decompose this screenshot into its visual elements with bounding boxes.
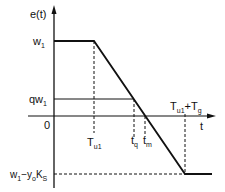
error-signal-diagram: e(t) w1 qw1 0 w1−yoKS Tu1 tq tm Tu1+Tg t <box>0 0 225 192</box>
tick-zero: 0 <box>44 119 50 131</box>
tick-Tu1-plus-Tg: Tu1+Tg <box>170 100 202 115</box>
y-axis-arrow-icon <box>52 5 57 14</box>
y-axis <box>52 5 57 188</box>
dashed-guides <box>54 41 185 174</box>
tick-tm: tm <box>143 134 152 148</box>
tick-Tu1: Tu1 <box>87 136 102 150</box>
x-axis-arrow-icon <box>207 114 216 119</box>
tick-qw1: qw1 <box>29 93 47 107</box>
x-axis-label: t <box>200 120 203 132</box>
y-axis-label: e(t) <box>30 8 47 20</box>
tick-tq: tq <box>131 134 138 149</box>
tick-w1: w1 <box>32 35 45 49</box>
x-axis <box>28 114 216 119</box>
tick-bottom-level: w1−yoKS <box>9 169 48 182</box>
